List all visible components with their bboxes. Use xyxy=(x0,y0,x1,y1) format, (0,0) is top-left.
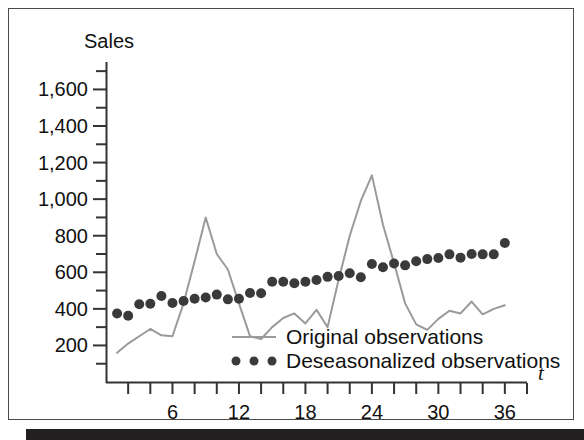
data-point-deseasonalized xyxy=(145,299,155,309)
data-point-deseasonalized xyxy=(500,238,510,248)
data-point-deseasonalized xyxy=(478,249,488,259)
y-axis-tick-label: 600 xyxy=(55,261,88,283)
x-axis-tick-label: 36 xyxy=(494,401,516,423)
y-axis-tick-label: 400 xyxy=(55,298,88,320)
x-axis-ticks xyxy=(128,383,527,394)
data-point-deseasonalized xyxy=(422,254,432,264)
y-axis-tick-label: 1,400 xyxy=(38,115,88,137)
data-point-deseasonalized xyxy=(467,249,477,259)
data-point-deseasonalized xyxy=(411,256,421,266)
data-point-deseasonalized xyxy=(433,253,443,263)
legend-dots-swatch xyxy=(232,357,277,366)
y-axis-tick-label: 200 xyxy=(55,334,88,356)
sales-timeseries-chart: Sales 2004006008001,0001,2001,4001,600 6… xyxy=(0,0,584,440)
y-axis-tick-label: 1,600 xyxy=(38,78,88,100)
page-bottom-bar xyxy=(26,429,584,440)
data-point-deseasonalized xyxy=(345,268,355,278)
figure-container: Sales 2004006008001,0001,2001,4001,600 6… xyxy=(0,0,584,440)
data-point-deseasonalized xyxy=(267,277,277,287)
data-point-deseasonalized xyxy=(123,311,133,321)
data-point-deseasonalized xyxy=(278,277,288,287)
x-axis-tick-labels: 61218243036 xyxy=(167,401,516,423)
data-point-deseasonalized xyxy=(179,296,189,306)
y-axis-tick-labels: 2004006008001,0001,2001,4001,600 xyxy=(38,78,88,356)
x-axis-tick-label: 30 xyxy=(427,401,449,423)
data-point-deseasonalized xyxy=(312,275,322,285)
x-axis-tick-label: 12 xyxy=(228,401,250,423)
data-point-deseasonalized xyxy=(389,259,399,269)
y-axis-title: Sales xyxy=(84,30,134,52)
data-point-deseasonalized xyxy=(223,294,233,304)
x-axis-tick-label: 18 xyxy=(294,401,316,423)
data-point-deseasonalized xyxy=(112,308,122,318)
data-point-deseasonalized xyxy=(378,262,388,272)
data-point-deseasonalized xyxy=(367,259,377,269)
y-axis-tick-label: 1,200 xyxy=(38,152,88,174)
legend-label-original: Original observations xyxy=(286,325,483,348)
data-point-deseasonalized xyxy=(201,293,211,303)
data-point-deseasonalized xyxy=(300,277,310,287)
y-axis-tick-label: 1,000 xyxy=(38,188,88,210)
legend-label-deseasonalized: Deseasonalized observations xyxy=(286,349,560,372)
x-axis-tick-label: 24 xyxy=(361,401,383,423)
data-point-deseasonalized xyxy=(256,288,266,298)
data-point-deseasonalized xyxy=(245,288,255,298)
data-point-deseasonalized xyxy=(400,260,410,270)
data-point-deseasonalized xyxy=(456,253,466,263)
data-point-deseasonalized xyxy=(489,249,499,259)
x-axis-tick-label: 6 xyxy=(167,401,178,423)
data-point-deseasonalized xyxy=(289,278,299,288)
data-point-deseasonalized xyxy=(212,290,222,300)
chart-legend: Original observations Deseasonalized obs… xyxy=(232,325,561,372)
data-point-deseasonalized xyxy=(444,249,454,259)
series-deseasonalized-observations-dots xyxy=(112,238,510,321)
data-point-deseasonalized xyxy=(323,272,333,282)
y-axis-tick-label: 800 xyxy=(55,225,88,247)
data-point-deseasonalized xyxy=(356,272,366,282)
data-point-deseasonalized xyxy=(167,298,177,308)
data-point-deseasonalized xyxy=(190,294,200,304)
data-point-deseasonalized xyxy=(156,291,166,301)
data-point-deseasonalized xyxy=(234,294,244,304)
data-point-deseasonalized xyxy=(134,299,144,309)
data-point-deseasonalized xyxy=(334,271,344,281)
y-axis-minor-ticks xyxy=(96,71,106,364)
